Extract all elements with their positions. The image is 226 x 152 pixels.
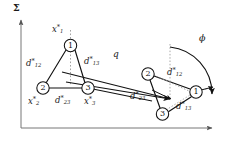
distance-label-ref-d23: d*23 bbox=[55, 95, 70, 106]
node-ref-3-label: 3 bbox=[84, 84, 92, 92]
position-label-x2-star: x*2 bbox=[28, 96, 39, 107]
distance-label-t-d12: d*12 bbox=[167, 67, 182, 78]
position-label-x1-star: x*1 bbox=[52, 24, 63, 35]
node-t-3-label: 3 bbox=[159, 110, 167, 118]
rotation-label-phi: ϕ bbox=[199, 33, 205, 43]
distance-label-ref-d12: d*12 bbox=[26, 58, 41, 69]
distance-label-t-d23: d*23 bbox=[130, 91, 145, 102]
distance-t-d13-sub: 13 bbox=[185, 105, 192, 111]
distance-ref-d23-sub: 23 bbox=[64, 99, 71, 105]
reference-formation-edges bbox=[46, 50, 85, 88]
edge-1-2 bbox=[46, 50, 66, 83]
distance-ref-d12-sub: 12 bbox=[35, 62, 42, 68]
distance-label-t-d13: d*13 bbox=[176, 101, 191, 112]
translation-label-q: q bbox=[113, 50, 119, 59]
distance-ref-d13-sub: 13 bbox=[93, 60, 100, 66]
figure-container: Σ 1 2 3 1 2 3 x*1 x*2 x*3 d*12 d*13 d*23… bbox=[0, 0, 226, 152]
node-ref-1-label: 1 bbox=[67, 42, 75, 50]
edge-1-2t bbox=[154, 76, 190, 89]
position-label-x3-sub: 3 bbox=[92, 100, 95, 106]
translation-vector-q bbox=[66, 82, 170, 99]
diagram-canvas bbox=[0, 0, 226, 152]
position-label-x1-sub: 1 bbox=[60, 28, 63, 34]
frame-label-sigma: Σ bbox=[13, 3, 20, 13]
coordinate-frame bbox=[21, 20, 212, 128]
node-ref-2-label: 2 bbox=[39, 84, 47, 92]
position-label-x3-star: x*3 bbox=[84, 96, 95, 107]
position-label-x2-sub: 2 bbox=[36, 100, 39, 106]
distance-label-ref-d13: d*13 bbox=[84, 56, 99, 67]
distance-t-d23-sub: 23 bbox=[139, 95, 146, 101]
node-t-2-label: 2 bbox=[144, 70, 152, 78]
node-t-1-label: 1 bbox=[192, 88, 200, 96]
distance-t-d12-sub: 12 bbox=[176, 71, 183, 77]
